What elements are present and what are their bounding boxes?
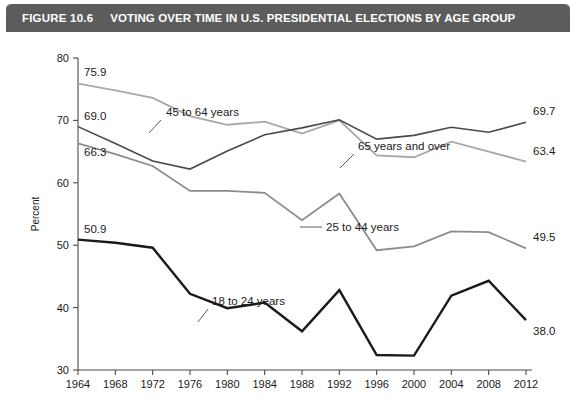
- chart-value-labels: 75.963.469.069.766.349.550.938.0: [84, 66, 556, 337]
- end-value-label: 63.4: [533, 145, 556, 157]
- series-annotation-label: 18 to 24 years: [212, 295, 285, 307]
- x-axis-tick-label: 1980: [215, 378, 239, 390]
- end-value-label: 38.0: [533, 325, 555, 337]
- x-axis-tick-label: 1984: [252, 378, 276, 390]
- start-value-label: 75.9: [84, 66, 106, 78]
- x-axis-tick-label: 2012: [514, 378, 538, 390]
- series-line-25-to-44-years: [78, 143, 526, 250]
- chart-annotations: 45 to 64 years65 years and over25 to 44 …: [149, 106, 450, 322]
- series-annotation-label: 25 to 44 years: [326, 221, 399, 233]
- chart-series: [78, 84, 526, 356]
- chart-plot-area: 3040506070801964196819721976198019841988…: [6, 32, 570, 408]
- figure-header-bar: FIGURE 10.6 VOTING OVER TIME IN U.S. PRE…: [6, 4, 570, 32]
- y-axis-tick-label: 60: [57, 177, 69, 189]
- x-axis-tick-label: 2004: [439, 378, 463, 390]
- end-value-label: 49.5: [533, 231, 555, 243]
- start-value-label: 50.9: [84, 223, 106, 235]
- x-axis-tick-label: 2008: [476, 378, 500, 390]
- y-axis-tick-label: 70: [57, 114, 69, 126]
- series-line-18-to-24-years: [78, 240, 526, 356]
- annotation-leader-line: [340, 154, 354, 168]
- x-axis-tick-label: 1988: [290, 378, 314, 390]
- annotation-leader-line: [198, 309, 208, 322]
- y-axis-tick-label: 80: [57, 52, 69, 64]
- y-axis-tick-label: 30: [57, 364, 69, 376]
- end-value-label: 69.7: [533, 105, 555, 117]
- line-chart: 3040506070801964196819721976198019841988…: [6, 32, 570, 408]
- y-axis-tick-label: 50: [57, 239, 69, 251]
- series-line-45-to-64-years: [78, 84, 526, 162]
- y-axis-title: Percent: [30, 197, 41, 232]
- annotation-leader-line: [149, 120, 161, 133]
- figure-container: FIGURE 10.6 VOTING OVER TIME IN U.S. PRE…: [0, 0, 576, 416]
- start-value-label: 69.0: [84, 110, 106, 122]
- x-axis-tick-label: 2000: [402, 378, 426, 390]
- series-annotation-label: 45 to 64 years: [166, 106, 239, 118]
- x-axis-tick-label: 1976: [178, 378, 202, 390]
- start-value-label: 66.3: [84, 146, 106, 158]
- y-axis-tick-label: 40: [57, 302, 69, 314]
- x-axis-tick-label: 1964: [66, 378, 90, 390]
- x-axis-tick-label: 1968: [103, 378, 127, 390]
- x-axis-tick-label: 1992: [327, 378, 351, 390]
- chart-axes: 3040506070801964196819721976198019841988…: [30, 52, 538, 390]
- figure-title: VOTING OVER TIME IN U.S. PRESIDENTIAL EL…: [110, 12, 515, 24]
- x-axis-tick-label: 1972: [140, 378, 164, 390]
- figure-number: FIGURE 10.6: [22, 12, 93, 24]
- series-annotation-label: 65 years and over: [358, 140, 450, 152]
- x-axis-tick-label: 1996: [364, 378, 388, 390]
